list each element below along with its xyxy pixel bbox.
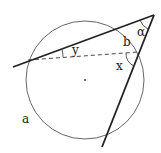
label-a: a [22, 112, 29, 126]
label-x: x [116, 59, 123, 73]
geometry-diagram: α b y x a [0, 0, 161, 153]
angle-arc-y [62, 49, 63, 57]
circle-center-dot [84, 79, 86, 81]
label-y: y [71, 43, 79, 57]
upper-secant-line [13, 15, 154, 67]
label-b: b [123, 35, 131, 49]
label-alpha: α [137, 25, 145, 39]
angle-arc-x [126, 53, 134, 66]
